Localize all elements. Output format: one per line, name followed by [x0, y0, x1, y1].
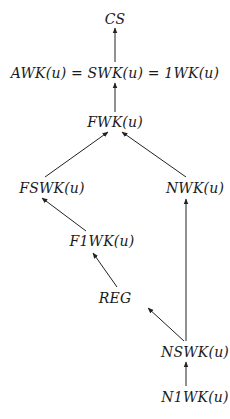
- node-nwk: NWK(u): [166, 180, 224, 196]
- edge-reg-to-f1wk: [93, 253, 117, 287]
- edge-f1wk-to-fswk: [42, 198, 86, 231]
- node-fswk: FSWK(u): [19, 180, 85, 196]
- node-reg: REG: [99, 290, 132, 306]
- node-f1wk: F1WK(u): [70, 233, 135, 249]
- node-awk-swk-1wk: AWK(u) = SWK(u) = 1WK(u): [11, 65, 219, 81]
- node-n1wk: N1WK(u): [161, 389, 228, 405]
- node-nswk: NSWK(u): [161, 344, 229, 360]
- node-cs: CS: [105, 11, 126, 27]
- implication-diagram: CS AWK(u) = SWK(u) = 1WK(u) FWK(u) FSWK(…: [0, 0, 230, 419]
- node-fwk: FWK(u): [87, 114, 143, 130]
- edge-fswk-to-fwk: [45, 132, 108, 177]
- edge-nswk-to-reg: [148, 308, 184, 341]
- edge-nwk-to-fwk: [122, 132, 186, 177]
